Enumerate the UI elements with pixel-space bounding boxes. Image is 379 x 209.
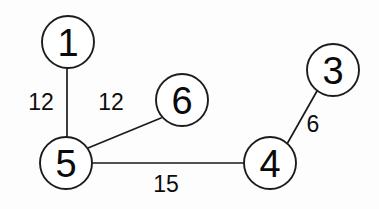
edge-weight-1-5: 12 [28, 89, 54, 115]
node-5[interactable]: 5 [40, 137, 92, 189]
graph-diagram-canvas: 12 12 15 6 1 6 3 5 4 [0, 0, 379, 209]
edge-weight-5-6: 12 [98, 89, 124, 115]
node-1[interactable]: 1 [42, 16, 94, 68]
node-6[interactable]: 6 [156, 74, 208, 126]
node-3-label: 3 [322, 50, 343, 92]
node-3[interactable]: 3 [307, 44, 359, 96]
graph-svg: 12 12 15 6 1 6 3 5 4 [0, 0, 379, 209]
edge-weight-4-3: 6 [307, 111, 320, 137]
node-6-label: 6 [171, 80, 192, 122]
edge-5-6[interactable] [88, 118, 161, 148]
node-1-label: 1 [57, 22, 78, 64]
node-5-label: 5 [55, 143, 76, 185]
node-4-label: 4 [259, 143, 280, 185]
node-4[interactable]: 4 [244, 137, 296, 189]
edge-weight-5-4: 15 [153, 171, 179, 197]
